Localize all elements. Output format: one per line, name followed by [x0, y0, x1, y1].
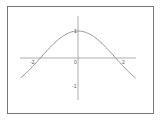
plot-area	[0, 0, 160, 122]
y-tick-label: -1	[72, 83, 76, 89]
x-tick-label: 0	[74, 59, 77, 65]
x-tick-label: 2	[122, 59, 125, 65]
y-tick-label: 1	[74, 28, 77, 34]
x-tick-label: -2	[30, 59, 34, 65]
